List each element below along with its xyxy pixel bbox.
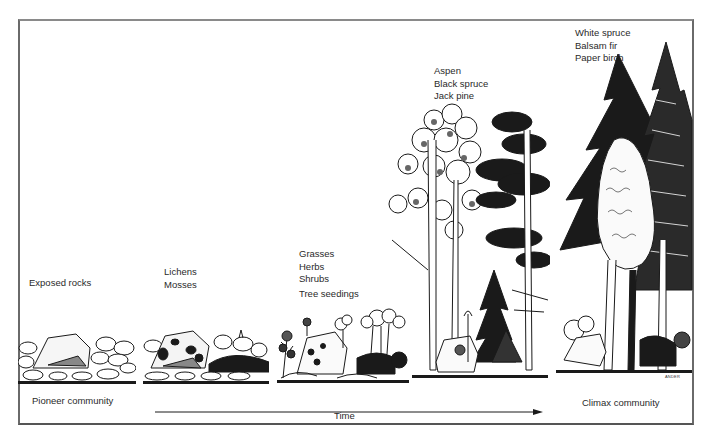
label-shrubs: Shrubs	[299, 273, 359, 286]
stage-4-label: Aspen Black spruce Jack pine	[434, 65, 488, 103]
label-tree-seedings: Tree seedings	[299, 288, 359, 301]
stage-4-illustration	[384, 100, 550, 385]
label-black-spruce: Black spruce	[434, 78, 488, 91]
climax-community-label: Climax community	[582, 397, 660, 408]
label-exposed-rocks: Exposed rocks	[29, 277, 91, 290]
stage-2-illustration	[143, 328, 269, 385]
pioneer-community-label: Pioneer community	[32, 395, 113, 406]
stage-5-illustration	[556, 40, 694, 385]
label-lichens: Lichens	[164, 266, 197, 279]
stage-2-label: Lichens Mosses	[164, 266, 197, 291]
label-mosses: Mosses	[164, 279, 197, 292]
label-grasses: Grasses	[299, 248, 359, 261]
stage-3-label: Grasses Herbs Shrubs Tree seedings	[299, 248, 359, 300]
label-aspen: Aspen	[434, 65, 488, 78]
stage-1-illustration	[18, 330, 136, 385]
time-arrow	[155, 401, 543, 407]
artist-signature: ANDER	[665, 374, 680, 379]
time-label: Time	[334, 410, 355, 421]
stage-1-label: Exposed rocks	[29, 277, 91, 290]
label-herbs: Herbs	[299, 261, 359, 274]
label-white-spruce: White spruce	[575, 27, 630, 40]
